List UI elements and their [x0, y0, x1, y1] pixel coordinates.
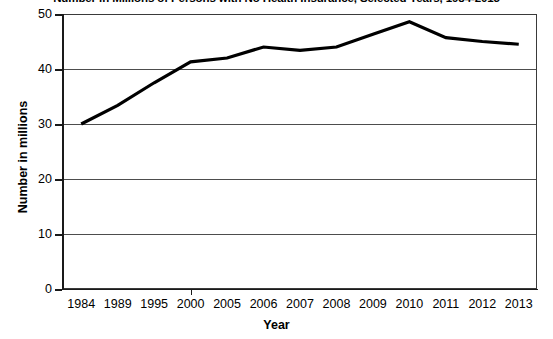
- chart-container: Number in Millions of Persons with No He…: [0, 0, 553, 339]
- chart-title: Number in Millions of Persons with No He…: [0, 0, 553, 4]
- x-tick-label: 2008: [323, 297, 351, 311]
- x-tick-label: 2000: [177, 297, 205, 311]
- y-tick-mark: [55, 234, 62, 236]
- x-axis-line: [62, 289, 538, 291]
- y-tick-label: 40: [0, 63, 52, 76]
- plot-area: [63, 14, 537, 289]
- x-tick-label: 2006: [250, 297, 278, 311]
- x-tick-label: 2007: [286, 297, 314, 311]
- y-tick-mark: [55, 69, 62, 71]
- gridline: [64, 179, 536, 180]
- x-tick-label: 1984: [67, 297, 95, 311]
- y-axis-title: Number in millions: [16, 77, 30, 237]
- y-tick-label: 0: [0, 283, 52, 296]
- y-tick-label: 50: [0, 8, 52, 21]
- y-tick-mark: [55, 289, 62, 291]
- gridline: [64, 69, 536, 70]
- y-tick-mark: [55, 179, 62, 181]
- x-tick-label: 1989: [104, 297, 132, 311]
- y-tick-label: 30: [0, 118, 52, 131]
- x-tick-label-group: 1984198919952000200520062007200820092010…: [63, 297, 537, 315]
- x-tick-mark: [191, 289, 193, 295]
- x-tick-label: 2012: [468, 297, 496, 311]
- gridline: [64, 124, 536, 125]
- x-axis-title: Year: [0, 318, 553, 332]
- x-tick-label: 1995: [140, 297, 168, 311]
- y-tick-label: 10: [0, 228, 52, 241]
- y-axis-line: [62, 14, 64, 290]
- x-tick-label: 2013: [505, 297, 533, 311]
- y-tick-mark: [55, 124, 62, 126]
- x-tick-label: 2011: [432, 297, 459, 311]
- x-tick-label: 2009: [359, 297, 387, 311]
- gridline: [64, 234, 536, 235]
- x-tick-label: 2005: [213, 297, 241, 311]
- x-tick-label: 2010: [395, 297, 423, 311]
- y-tick-mark: [55, 14, 62, 16]
- y-tick-label: 20: [0, 173, 52, 186]
